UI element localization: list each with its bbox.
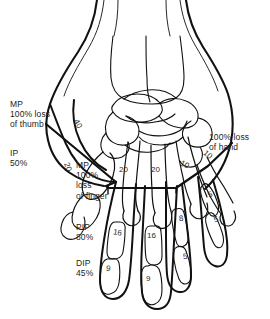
value-ring-proximal: 8 (178, 215, 184, 224)
ip-thumb-label: IP 50% (10, 148, 27, 168)
hand-anatomy-illustration (0, 0, 270, 319)
carpal-bones (101, 94, 212, 167)
radius-ulna-bones (111, 36, 184, 104)
value-ring-distal: 5 (183, 253, 188, 261)
mp-finger-label: MP 100% loss of finger (76, 160, 108, 201)
whole-hand-label: 100% loss of hand (209, 132, 249, 152)
dip-finger-label: DIP 45% (76, 258, 93, 278)
value-middle-proximal: 16 (147, 232, 156, 240)
forearm-contours (64, 0, 218, 96)
value-index-proximal: 16 (112, 228, 122, 237)
value-metacarpal-middle: 20 (151, 166, 160, 174)
hand-impairment-figure: MP 100% loss of thumb IP 50% MP 100% los… (0, 0, 270, 319)
mp-thumb-label: MP 100% loss of thumb (10, 99, 50, 130)
pip-finger-label: PIP 80% (76, 222, 93, 242)
value-metacarpal-index: 20 (119, 166, 128, 174)
value-middle-distal: 9 (146, 275, 150, 283)
